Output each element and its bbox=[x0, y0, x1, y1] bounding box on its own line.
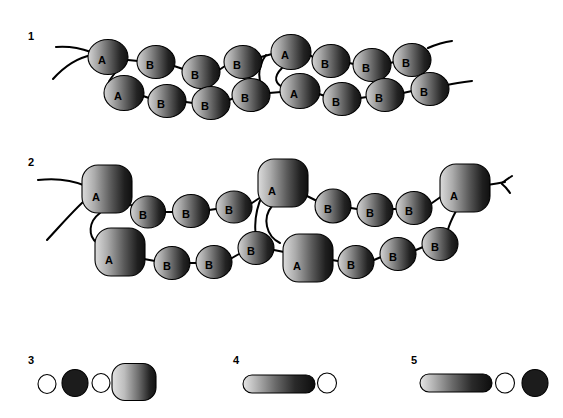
panel-1-group: A B B B A bbox=[53, 35, 472, 120]
subunit-b[interactable]: B bbox=[315, 189, 351, 223]
subunit-letter: B bbox=[375, 92, 383, 104]
subunit-letter: A bbox=[105, 254, 113, 266]
subunit-b[interactable]: B bbox=[148, 85, 186, 118]
subunit-b[interactable]: B bbox=[131, 196, 166, 228]
subunit-letter: B bbox=[146, 59, 154, 71]
subunit-letter: A bbox=[450, 190, 458, 202]
subunit-b[interactable]: B bbox=[192, 87, 230, 120]
panel-4-group bbox=[243, 373, 337, 393]
subunit-letter: A bbox=[114, 90, 122, 102]
subunit-a[interactable]: A bbox=[440, 164, 490, 212]
subunit-b[interactable]: B bbox=[411, 73, 449, 106]
particle-gradient-rounded-square[interactable] bbox=[112, 364, 156, 401]
subunit-letter: B bbox=[389, 251, 397, 263]
panel-3-group bbox=[38, 364, 156, 401]
subunit-b[interactable]: B bbox=[182, 56, 220, 89]
subunit-letter: B bbox=[347, 259, 355, 271]
subunit-letter: A bbox=[98, 54, 106, 66]
subunit-letter: B bbox=[321, 58, 329, 70]
subunit-letter: B bbox=[182, 208, 190, 220]
subunit-b[interactable]: B bbox=[137, 46, 175, 79]
subunit-letter: A bbox=[290, 88, 298, 100]
subunit-b[interactable]: B bbox=[323, 83, 361, 116]
subunit-b[interactable]: B bbox=[196, 246, 232, 279]
tail-left-upper-p2 bbox=[38, 179, 86, 186]
subunit-b[interactable]: B bbox=[366, 79, 404, 112]
subunit-letter: B bbox=[157, 98, 165, 110]
figure-root: 1 2 3 4 5 bbox=[0, 0, 563, 418]
subunit-letter: B bbox=[324, 203, 332, 215]
subunit-b[interactable]: B bbox=[232, 79, 270, 112]
subunit-letter: B bbox=[205, 259, 213, 271]
subunit-letter: B bbox=[241, 92, 249, 104]
subunit-letter: B bbox=[191, 69, 199, 81]
subunit-b[interactable]: B bbox=[357, 194, 393, 227]
subunit-a[interactable]: A bbox=[88, 40, 128, 75]
subunit-letter: B bbox=[431, 241, 439, 253]
subunit-letter: B bbox=[420, 86, 428, 98]
subunit-letter: A bbox=[281, 49, 289, 61]
subunit-a[interactable]: A bbox=[271, 35, 311, 70]
panel-5-group bbox=[420, 370, 548, 397]
particle-gradient-rod[interactable] bbox=[243, 375, 315, 393]
subunit-b[interactable]: B bbox=[154, 247, 190, 280]
subunit-a[interactable]: A bbox=[82, 165, 132, 213]
subunit-letter: B bbox=[139, 209, 147, 221]
subunit-b[interactable]: B bbox=[422, 228, 458, 261]
subunits-lower-p2: A B B B A bbox=[95, 228, 458, 283]
subunit-letter: A bbox=[92, 191, 100, 203]
subunit-letter: B bbox=[402, 57, 410, 69]
subunit-b[interactable]: B bbox=[380, 238, 416, 271]
subunit-b[interactable]: B bbox=[173, 195, 210, 228]
subunit-b[interactable]: B bbox=[396, 192, 432, 225]
subunit-b[interactable]: B bbox=[338, 246, 374, 279]
subunit-letter: B bbox=[225, 204, 233, 216]
subunit-a[interactable]: A bbox=[280, 74, 320, 109]
particle-gradient-rod[interactable] bbox=[420, 374, 492, 392]
particle-filled-circle[interactable] bbox=[62, 370, 88, 397]
subunit-b[interactable]: B bbox=[238, 232, 274, 265]
subunit-a[interactable]: A bbox=[258, 159, 308, 207]
subunit-letter: B bbox=[366, 207, 374, 219]
subunit-b[interactable]: B bbox=[393, 44, 431, 77]
tail-right-fork-lower-p2 bbox=[502, 184, 510, 193]
subunit-b[interactable]: B bbox=[312, 45, 350, 78]
particle-open-circle[interactable] bbox=[496, 373, 515, 393]
particle-open-circle[interactable] bbox=[318, 373, 337, 393]
subunit-letter: A bbox=[293, 260, 301, 272]
tail-left-upper-p1 bbox=[56, 47, 91, 52]
subunits-upper-p2: A B B B A bbox=[82, 159, 490, 228]
subunit-letter: B bbox=[362, 62, 370, 74]
tail-right-upper-p1 bbox=[428, 41, 452, 48]
tail-right-fork-upper-p2 bbox=[502, 176, 512, 183]
particle-open-circle[interactable] bbox=[92, 374, 110, 393]
subunit-a[interactable]: A bbox=[104, 76, 144, 111]
subunit-letter: A bbox=[268, 185, 276, 197]
subunit-letter: B bbox=[163, 260, 171, 272]
subunit-a[interactable]: A bbox=[283, 234, 333, 282]
tail-left-lower-p1 bbox=[53, 55, 92, 79]
subunit-b[interactable]: B bbox=[216, 191, 252, 223]
subunit-a[interactable]: A bbox=[95, 228, 145, 276]
subunit-letter: B bbox=[332, 96, 340, 108]
figure-canvas: A B B B A bbox=[0, 0, 563, 418]
panel-2-group: A B B B A bbox=[38, 159, 512, 282]
subunit-letter: B bbox=[201, 100, 209, 112]
particle-open-circle[interactable] bbox=[38, 375, 56, 394]
subunit-letter: B bbox=[405, 205, 413, 217]
tail-right-lower-p1 bbox=[447, 81, 472, 85]
particle-filled-circle[interactable] bbox=[522, 370, 548, 397]
subunit-letter: B bbox=[233, 59, 241, 71]
subunit-letter: B bbox=[247, 245, 255, 257]
subunit-b[interactable]: B bbox=[353, 49, 391, 82]
subunit-b[interactable]: B bbox=[224, 46, 262, 79]
